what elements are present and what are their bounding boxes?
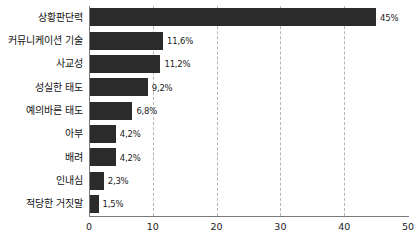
bar [89, 172, 104, 190]
bar [89, 78, 148, 96]
bar-row: 상황판단력45% [89, 6, 408, 29]
bar-row: 인내심2,3% [89, 169, 408, 192]
category-label: 배려 [65, 153, 83, 163]
bar [89, 195, 99, 213]
bar-row: 적당한 거짓말1,5% [89, 193, 408, 216]
bar-row: 커뮤니케이션 기술11,6% [89, 29, 408, 52]
x-tick-label: 50 [402, 221, 414, 232]
x-tick-label: 0 [86, 221, 92, 232]
x-axis-line [89, 216, 409, 217]
bar-row: 배려4,2% [89, 146, 408, 169]
x-tick-label: 10 [147, 221, 159, 232]
bar-row: 예의바른 태도6,8% [89, 99, 408, 122]
bar-value-label: 4,2% [120, 129, 141, 139]
bar-value-label: 2,3% [108, 176, 129, 186]
bar [89, 55, 160, 73]
bar-row: 사교성11,2% [89, 53, 408, 76]
category-label: 사교성 [56, 59, 83, 69]
bar-chart: 상황판단력45%커뮤니케이션 기술11,6%사교성11,2%성실한 태도9,2%… [0, 0, 419, 248]
bar [89, 102, 132, 120]
bar-value-label: 6,8% [136, 106, 157, 116]
x-tick-label: 20 [211, 221, 223, 232]
category-label: 인내심 [56, 176, 83, 186]
bar-value-label: 1,5% [103, 199, 124, 209]
bar-value-label: 9,2% [152, 83, 173, 93]
bar [89, 8, 376, 26]
category-label: 커뮤니케이션 기술 [8, 36, 83, 46]
bar [89, 148, 116, 166]
bar-value-label: 4,2% [120, 153, 141, 163]
bar-row: 성실한 태도9,2% [89, 76, 408, 99]
bar [89, 125, 116, 143]
category-label: 예의바른 태도 [26, 106, 83, 116]
y-axis-line [89, 6, 90, 217]
category-label: 적당한 거짓말 [26, 199, 83, 209]
category-label: 성실한 태도 [35, 83, 83, 93]
bar-row: 아부4,2% [89, 123, 408, 146]
plot-area: 상황판단력45%커뮤니케이션 기술11,6%사교성11,2%성실한 태도9,2%… [89, 6, 408, 216]
category-label: 아부 [65, 129, 83, 139]
bar-value-label: 11,6% [167, 36, 193, 46]
x-tick-label: 40 [338, 221, 350, 232]
bar-value-label: 11,2% [164, 59, 190, 69]
bar-value-label: 45% [380, 13, 398, 23]
x-tick-label: 30 [274, 221, 286, 232]
category-label: 상황판단력 [38, 13, 83, 23]
bar [89, 32, 163, 50]
